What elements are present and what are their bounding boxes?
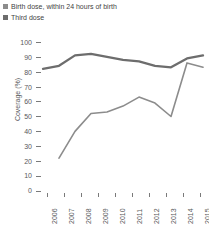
series-line-birth-dose [59,63,203,158]
y-tick-label: 60 [24,98,32,105]
x-tick-label: 2013 [170,208,177,224]
y-tick-label: 10 [24,172,32,179]
y-tick-mark [36,191,41,192]
y-tick-label: 40 [24,128,32,135]
x-tick-label: 2014 [187,208,194,224]
x-tick-label: 2009 [102,208,109,224]
hepatitis-b-coverage-line-chart: Birth dose, within 24 hours of birth Thi… [0,0,209,228]
y-tick-mark [36,131,41,132]
y-tick-label: 100 [20,39,32,46]
y-tick-mark [36,176,41,177]
series-lines [43,42,203,194]
plot-area [43,42,198,191]
y-tick-label: 70 [24,84,32,91]
y-tick-mark [36,161,41,162]
y-tick-label: 20 [24,158,32,165]
x-tick-label: 2012 [153,208,160,224]
y-tick-label: 30 [24,143,32,150]
y-tick-mark [36,57,41,58]
y-tick-label: 90 [24,54,32,61]
y-tick-mark [36,116,41,117]
y-tick-mark [36,72,41,73]
x-tick-label: 2015 [204,208,209,224]
y-axis: Coverage (%) 100 90 80 70 60 50 40 30 20… [0,0,43,228]
series-line-third-dose [43,54,203,69]
y-tick-mark [36,101,41,102]
y-tick-mark [36,87,41,88]
y-tick-label: 50 [24,113,32,120]
x-tick-label: 2011 [136,209,143,224]
x-tick-label: 2007 [68,208,75,224]
y-axis-title: Coverage (%) [14,70,21,130]
x-tick-label: 2006 [51,208,58,224]
x-tick-label: 2008 [85,208,92,224]
y-tick-label: 80 [24,69,32,76]
x-tick-label: 2010 [119,208,126,224]
y-tick-mark [36,146,41,147]
y-tick-mark [36,42,41,43]
y-tick-label: 0 [28,187,32,194]
